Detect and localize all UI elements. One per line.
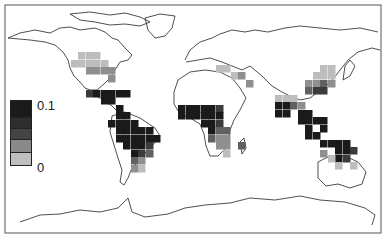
grid-cell <box>193 112 201 120</box>
grid-cell <box>290 102 298 110</box>
grid-cell <box>131 127 139 135</box>
grid-cell <box>343 140 351 148</box>
grid-cell <box>238 142 246 150</box>
grid-cell <box>186 112 194 120</box>
grid-cell <box>123 112 131 120</box>
grid-cell <box>343 147 351 155</box>
grid-cell <box>86 67 94 75</box>
grid-cell <box>275 110 283 118</box>
grid-cell <box>108 120 116 128</box>
grid-cell <box>320 150 328 158</box>
grid-cell <box>93 60 101 68</box>
grid-cell <box>223 127 231 135</box>
grid-cell <box>131 157 139 165</box>
grid-cell <box>216 112 224 120</box>
grid-cell <box>101 90 109 98</box>
world-map <box>0 0 386 240</box>
grid-cell <box>123 135 131 143</box>
grid-cell <box>216 65 224 73</box>
grid-cell <box>208 127 216 135</box>
legend-max-label: 0.1 <box>37 98 55 113</box>
grid-cell <box>313 72 321 80</box>
grid-cell <box>123 90 131 98</box>
grid-cell <box>101 97 109 105</box>
grid-cell <box>146 150 154 158</box>
legend-swatch <box>10 139 32 153</box>
grid-cell <box>123 120 131 128</box>
grid-cell <box>146 127 154 135</box>
grid-cell <box>201 105 209 113</box>
grid-cell <box>305 117 313 125</box>
grid-cell <box>201 112 209 120</box>
grid-cell <box>216 120 224 128</box>
grid-cell <box>86 60 94 68</box>
grid-cell <box>313 132 321 140</box>
grid-cell <box>298 117 306 125</box>
grid-cell <box>146 135 154 143</box>
grid-cell <box>335 140 343 148</box>
grid-cell <box>93 90 101 98</box>
grid-cell <box>290 95 298 103</box>
grid-cell <box>223 135 231 143</box>
grid-cell <box>108 90 116 98</box>
grid-cell <box>320 72 328 80</box>
grid-cell <box>283 110 291 118</box>
grid-cell <box>86 90 94 98</box>
grid-cell <box>101 60 109 68</box>
legend-min-label: 0 <box>37 160 44 175</box>
grid-cell <box>116 90 124 98</box>
grid-cell <box>283 95 291 103</box>
grid-cell <box>208 112 216 120</box>
legend-swatch <box>10 152 32 166</box>
grid-cell <box>116 112 124 120</box>
grid-cell <box>305 87 313 95</box>
grid-cell <box>138 150 146 158</box>
grid-cell <box>275 95 283 103</box>
grid-cell <box>328 65 336 73</box>
grid-cell <box>320 125 328 133</box>
grid-cell <box>131 150 139 158</box>
grid-cell <box>313 80 321 88</box>
grid-cell <box>131 120 139 128</box>
grid-cell <box>305 125 313 133</box>
grid-cell <box>216 127 224 135</box>
grid-cell <box>208 105 216 113</box>
grid-cell <box>178 112 186 120</box>
grid-cell <box>320 140 328 148</box>
grid-cell <box>335 162 343 170</box>
grid-cell <box>216 142 224 150</box>
grid-cell <box>216 135 224 143</box>
grid-cell <box>208 135 216 143</box>
grid-cell <box>123 127 131 135</box>
grid-cell <box>320 117 328 125</box>
grid-cell <box>108 97 116 105</box>
grid-cell <box>116 105 124 113</box>
grid-cell <box>298 110 306 118</box>
grid-cell <box>223 65 231 73</box>
grid-cell <box>123 142 131 150</box>
grid-cell <box>138 157 146 165</box>
grid-cell <box>116 127 124 135</box>
grid-cell <box>283 102 291 110</box>
grid-cell <box>313 87 321 95</box>
grid-cell <box>343 155 351 163</box>
grid-cell <box>223 142 231 150</box>
grid-cell <box>313 117 321 125</box>
grid-cell <box>138 135 146 143</box>
grid-cell <box>116 135 124 143</box>
grid-cell <box>153 135 161 143</box>
grid-cell <box>350 162 358 170</box>
grid-cell <box>320 80 328 88</box>
grid-cell <box>335 155 343 163</box>
grid-cell <box>335 147 343 155</box>
grid-cell <box>78 52 86 60</box>
grid-cell <box>138 142 146 150</box>
grid-cell <box>138 127 146 135</box>
grid-cell <box>186 105 194 113</box>
grid-cell <box>93 52 101 60</box>
grid-cell <box>178 105 186 113</box>
grid-cell <box>320 65 328 73</box>
grid-cell <box>146 142 154 150</box>
grid-cell <box>131 142 139 150</box>
grid-cell <box>305 80 313 88</box>
